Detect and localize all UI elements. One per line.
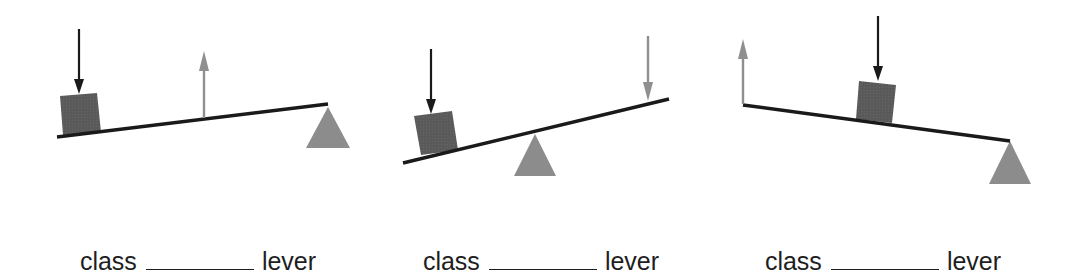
load-block bbox=[856, 81, 896, 123]
load-arrow-down-icon bbox=[873, 16, 883, 81]
load-block bbox=[414, 111, 458, 155]
class-word: class bbox=[765, 247, 822, 274]
lever-word: lever bbox=[262, 247, 316, 274]
fulcrum-triangle bbox=[514, 134, 556, 176]
fulcrum-triangle bbox=[306, 107, 350, 148]
lever-2-label: classlever bbox=[409, 213, 659, 274]
lever-2 bbox=[403, 36, 669, 176]
class-word: class bbox=[80, 247, 137, 274]
answer-blank[interactable] bbox=[831, 247, 939, 270]
load-arrow-down-icon bbox=[426, 49, 436, 114]
lever-1 bbox=[57, 29, 350, 148]
answer-blank[interactable] bbox=[489, 247, 597, 270]
load-arrow-down-icon bbox=[74, 29, 84, 94]
effort-arrow-down-icon bbox=[643, 36, 653, 101]
fulcrum-triangle bbox=[989, 141, 1031, 184]
lever-word: lever bbox=[605, 247, 659, 274]
lever-1-label: classlever bbox=[66, 213, 316, 274]
class-word: class bbox=[423, 247, 480, 274]
answer-blank[interactable] bbox=[146, 247, 254, 270]
effort-arrow-up-icon bbox=[199, 51, 209, 118]
load-block bbox=[60, 93, 101, 135]
lever-3-label: classlever bbox=[751, 213, 1001, 274]
effort-arrow-up-icon bbox=[738, 39, 748, 104]
lever-3 bbox=[738, 16, 1031, 184]
lever-word: lever bbox=[947, 247, 1001, 274]
